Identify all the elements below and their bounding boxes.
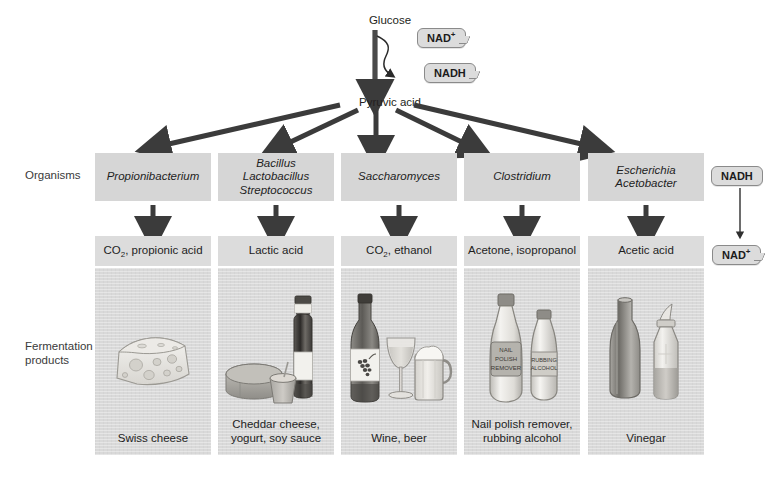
nad-plus-tag-top: NAD+ xyxy=(417,28,466,48)
product-box-4: Acetone, isopropanol xyxy=(464,236,580,266)
organism-name-5-1: Escherichia xyxy=(615,164,676,178)
panel-caption-1-line1: Swiss cheese xyxy=(95,431,211,445)
row-label-fermentation-products: Fermentation products xyxy=(25,339,103,367)
beer-mug xyxy=(415,346,451,400)
product-box-2: Lactic acid xyxy=(218,236,334,266)
product-box-5: Acetic acid xyxy=(588,236,704,266)
panel-caption-2: Cheddar cheese, yogurt, soy sauce xyxy=(218,417,334,445)
product-box-3: CO2, ethanol xyxy=(341,236,457,266)
vinegar-cruet xyxy=(654,304,678,399)
vinegar-bottle xyxy=(610,298,640,398)
product-text-3-post: , ethanol xyxy=(388,244,432,256)
panel-caption-4-line1: Nail polish remover, xyxy=(464,417,580,431)
nad-plus-tag-top-label: NAD xyxy=(427,32,451,44)
product-box-1: CO2, propionic acid xyxy=(95,236,211,266)
fermentation-diagram: Glucose NAD+ NADH Pyruvic acid xyxy=(0,0,780,478)
product-text-4-pre: Acetone, isopropanol xyxy=(468,244,576,256)
glucose-to-pyruvate-arrow xyxy=(360,30,410,102)
panel-caption-4: Nail polish remover, rubbing alcohol xyxy=(464,417,580,445)
organism-name-4-1: Clostridium xyxy=(493,170,551,184)
illustration-panel-1: Swiss cheese xyxy=(95,268,211,455)
organism-to-product-arrow-5 xyxy=(640,205,654,237)
panel-caption-5-line1: Vinegar xyxy=(588,431,704,445)
npr-label-line2: POLISH xyxy=(495,356,517,362)
product-text-3-pre: CO xyxy=(366,244,383,256)
panel-caption-2-line1: Cheddar cheese, xyxy=(218,417,334,431)
organism-box-2: Bacillus Lactobacillus Streptococcus xyxy=(218,153,334,201)
panel-caption-3-line1: Wine, beer xyxy=(341,431,457,445)
soy-sauce-bottle-cheese-yogurt-icon xyxy=(224,290,332,408)
panel-caption-2-line2: yogurt, soy sauce xyxy=(218,431,334,445)
panel-caption-5: Vinegar xyxy=(588,431,704,445)
soy-sauce-bottle xyxy=(294,296,313,398)
panel-caption-4-line2: rubbing alcohol xyxy=(464,431,580,445)
panel-caption-1: Swiss cheese xyxy=(95,431,211,445)
product-text-1-pre: CO xyxy=(103,244,120,256)
product-text-5-pre: Acetic acid xyxy=(618,244,674,256)
organism-name-1-1: Propionibacterium xyxy=(107,170,200,184)
illustration-panel-4: NAIL POLISH REMOVER RUBBING ALCOHOL Nail… xyxy=(464,268,580,455)
organism-to-product-arrow-4 xyxy=(516,205,530,237)
nad-plus-tag-side: NAD+ xyxy=(712,245,761,265)
organism-to-product-arrow-1 xyxy=(147,205,161,237)
wine-bottle xyxy=(351,294,380,402)
wine-bottle-wine-glass-beer-mug-icon xyxy=(345,292,455,410)
nad-plus-tag-side-sup: + xyxy=(746,247,751,256)
ra-label-line2: ALCOHOL xyxy=(531,365,558,371)
glucose-label: Glucose xyxy=(0,14,780,26)
nadh-to-nad-plus-arrow xyxy=(735,188,749,246)
product-text-2-pre: Lactic acid xyxy=(249,244,303,256)
organism-box-1: Propionibacterium xyxy=(95,153,211,201)
organism-box-3: Saccharomyces xyxy=(341,153,457,201)
illustration-panel-2: Cheddar cheese, yogurt, soy sauce xyxy=(218,268,334,455)
organism-name-2-2: Lactobacillus xyxy=(240,170,313,184)
product-text-1-post: , propionic acid xyxy=(125,244,202,256)
illustration-panel-5: Vinegar xyxy=(588,268,704,455)
organism-box-5: Escherichia Acetobacter xyxy=(588,153,704,201)
nad-plus-tag-top-sup: + xyxy=(451,30,456,39)
nadh-tag-top: NADH xyxy=(424,63,476,83)
nadh-tag-top-label: NADH xyxy=(434,67,466,79)
npr-label-line1: NAIL xyxy=(499,347,513,353)
organism-name-2-1: Bacillus xyxy=(240,157,313,171)
nadh-tag-side: NADH xyxy=(711,166,763,186)
illustration-panel-3: Wine, beer xyxy=(341,268,457,455)
organism-to-product-arrow-3 xyxy=(393,205,407,237)
npr-label-line3: REMOVER xyxy=(491,365,522,371)
vinegar-bottle-and-cruet-icon xyxy=(598,294,698,410)
organism-to-product-arrow-2 xyxy=(270,205,284,237)
organism-box-4: Clostridium xyxy=(464,153,580,201)
rubbing-alcohol-bottle: RUBBING ALCOHOL xyxy=(531,310,558,400)
nail-polish-remover-and-rubbing-alcohol-bottles-icon: NAIL POLISH REMOVER RUBBING ALCOHOL xyxy=(472,290,576,410)
ra-label-line1: RUBBING xyxy=(531,357,557,363)
organism-name-5-2: Acetobacter xyxy=(615,177,676,191)
pyruvate-fanout-arrows xyxy=(0,98,780,160)
panel-caption-3: Wine, beer xyxy=(341,431,457,445)
organism-name-3-1: Saccharomyces xyxy=(358,170,440,184)
nail-polish-remover-bottle: NAIL POLISH REMOVER xyxy=(490,294,522,402)
organism-name-2-3: Streptococcus xyxy=(240,184,313,198)
nad-plus-tag-side-label: NAD xyxy=(722,249,746,261)
row-label-organisms: Organisms xyxy=(25,168,81,182)
nadh-tag-side-label: NADH xyxy=(721,170,753,182)
row-label-fermentation-products-line1: Fermentation xyxy=(25,339,103,353)
row-label-fermentation-products-line2: products xyxy=(25,353,103,367)
wine-glass xyxy=(387,338,415,398)
swiss-cheese-wedge-icon xyxy=(109,326,199,398)
